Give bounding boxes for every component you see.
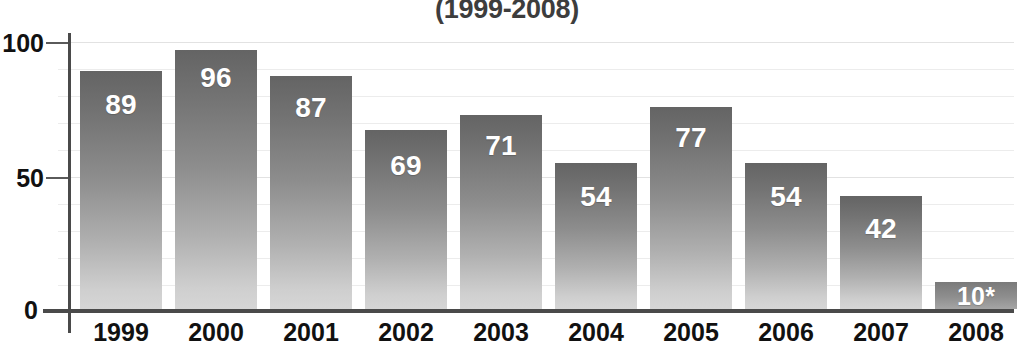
bar-value-2006: 54: [745, 181, 827, 213]
bar-2002[interactable]: 69: [365, 130, 447, 309]
bar-2000[interactable]: 96: [175, 50, 257, 309]
x-axis-label-2007: 2007: [840, 318, 922, 347]
bar-value-2005: 77: [650, 122, 732, 154]
x-axis-label-2005: 2005: [650, 318, 732, 347]
bar-2005[interactable]: 77: [650, 107, 732, 309]
y-axis-line: [68, 33, 71, 333]
bar-2006[interactable]: 54: [745, 163, 827, 309]
y-axis-label-0: 0: [0, 296, 38, 325]
x-axis-label-2002: 2002: [365, 318, 447, 347]
bar-2003[interactable]: 71: [460, 115, 542, 309]
x-axis-label-2006: 2006: [745, 318, 827, 347]
bar-2004[interactable]: 54: [555, 163, 637, 309]
bar-value-2003: 71: [460, 130, 542, 162]
bar-value-2000: 96: [175, 62, 257, 94]
x-axis-label-2004: 2004: [555, 318, 637, 347]
bar-2001[interactable]: 87: [270, 76, 352, 309]
bar-1999[interactable]: 89: [80, 71, 162, 309]
y-tick-100: [46, 42, 68, 44]
y-axis-label-50: 50: [0, 164, 44, 193]
bar-value-2007: 42: [840, 213, 922, 245]
x-axis-label-2008: 2008: [935, 318, 1017, 347]
x-axis-label-2001: 2001: [270, 318, 352, 347]
x-axis-label-1999: 1999: [80, 318, 162, 347]
bar-value-2004: 54: [555, 181, 637, 213]
y-tick-50: [46, 177, 68, 179]
bar-value-2002: 69: [365, 150, 447, 182]
bar-value-2008: 10*: [935, 282, 1017, 311]
bar-value-1999: 89: [80, 89, 162, 121]
bar-value-2001: 87: [270, 92, 352, 124]
x-axis-label-2000: 2000: [175, 318, 257, 347]
bar-2008[interactable]: 10*: [935, 282, 1017, 309]
x-axis-line: [43, 309, 1014, 313]
gridline-100: [58, 42, 1014, 43]
bar-2007[interactable]: 42: [840, 196, 922, 309]
y-axis-label-100: 100: [0, 29, 44, 58]
x-axis-label-2003: 2003: [460, 318, 542, 347]
